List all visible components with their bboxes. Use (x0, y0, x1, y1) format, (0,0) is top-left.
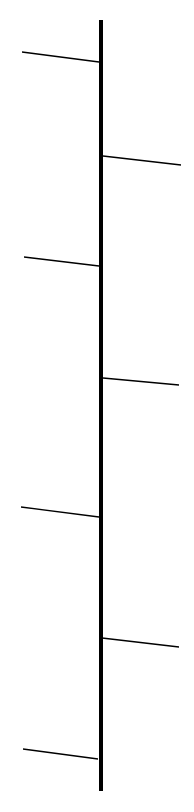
branch-line-right-4 (103, 378, 179, 385)
branch-line-left-7 (23, 749, 98, 759)
branch-line-right-2 (103, 156, 181, 165)
timeline-diagram (0, 0, 194, 812)
branch-line-left-3 (24, 257, 99, 266)
branch-line-left-1 (22, 52, 99, 62)
branch-line-right-6 (102, 638, 179, 647)
branch-line-left-5 (21, 507, 99, 517)
